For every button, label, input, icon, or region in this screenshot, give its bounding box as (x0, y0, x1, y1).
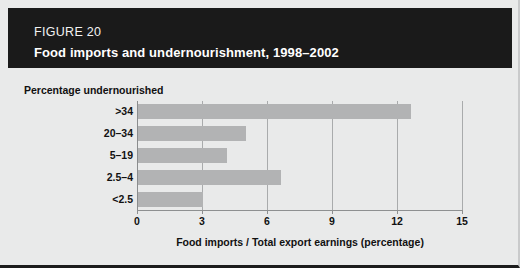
x-axis-tick-label: 0 (134, 215, 140, 227)
bar (138, 170, 281, 185)
bar (138, 104, 411, 119)
x-axis-tick-label: 6 (264, 215, 270, 227)
x-axis-title: Food imports / Total export earnings (pe… (137, 236, 463, 248)
x-axis-line (137, 210, 463, 211)
figure-header-band: FIGURE 20 Food imports and undernourishm… (8, 8, 512, 68)
y-axis-tick-label: 20–34 (13, 127, 133, 139)
y-axis-tick-label: 2.5–4 (13, 171, 133, 183)
x-axis-tick (137, 210, 138, 214)
gridline (462, 101, 463, 210)
bar (138, 148, 227, 163)
y-axis-tick-label: 5–19 (13, 149, 133, 161)
y-axis-line (137, 101, 138, 211)
y-axis-tick-label: >34 (13, 105, 133, 117)
figure-title: Food imports and undernourishment, 1998–… (34, 45, 339, 60)
x-axis-tick (397, 210, 398, 214)
figure-card: FIGURE 20 Food imports and undernourishm… (0, 0, 520, 268)
x-axis-tick (202, 210, 203, 214)
x-axis-tick (267, 210, 268, 214)
y-axis-tick-label: <2.5 (13, 193, 133, 205)
x-axis-tick-label: 9 (329, 215, 335, 227)
x-axis-tick (462, 210, 463, 214)
x-axis-tick-label: 15 (456, 215, 468, 227)
figure-number-label: FIGURE 20 (34, 25, 101, 39)
y-axis-tick-labels: >3420–345–192.5–4<2.5 (9, 101, 133, 210)
x-axis-tick-label: 3 (199, 215, 205, 227)
bar (138, 192, 203, 207)
x-axis-tick (332, 210, 333, 214)
x-axis-tick-label: 12 (391, 215, 403, 227)
plot-area (137, 101, 462, 210)
bar (138, 126, 246, 141)
y-axis-title: Percentage undernourished (24, 84, 163, 96)
